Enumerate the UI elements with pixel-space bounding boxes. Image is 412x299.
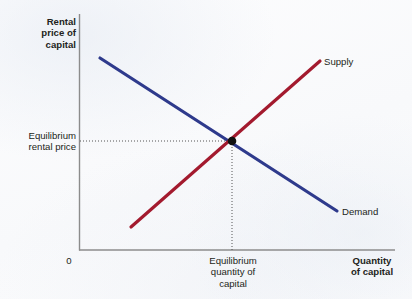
supply-curve: [131, 61, 320, 227]
supply-curve-label: Supply: [324, 56, 353, 67]
equilibrium-quantity-label: Equilibrium quantity of capital: [188, 255, 278, 289]
y-axis-title: Rental price of capital: [8, 16, 76, 50]
capital-market-diagram: Rental price of capital Equilibrium rent…: [0, 0, 412, 299]
equilibrium-rental-price-label: Equilibrium rental price: [4, 130, 76, 153]
demand-curve-label: Demand: [342, 206, 378, 217]
x-axis-title: Quantity of capital: [334, 255, 410, 278]
equilibrium-point-marker: [228, 137, 237, 146]
origin-label: 0: [62, 255, 76, 266]
demand-curve: [100, 58, 337, 211]
